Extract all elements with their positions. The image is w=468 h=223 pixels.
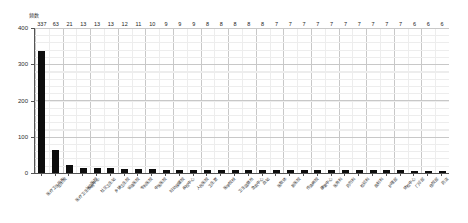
x-axis-label-slot: 医疗卫生服务中心 (62, 176, 76, 221)
bar-chart-figure: 频数 3376321131313121110999888887777777777… (0, 0, 468, 223)
bar-item[interactable]: 63 (49, 28, 63, 173)
bar-value-label: 7 (385, 21, 388, 27)
bar-rect[interactable] (66, 165, 73, 173)
bar-item[interactable]: 6 (435, 28, 449, 173)
bar-value-label: 7 (316, 21, 319, 27)
bar-item[interactable]: 8 (242, 28, 256, 173)
bar-value-label: 7 (371, 21, 374, 27)
y-axis-tick-label: 200 (18, 98, 28, 104)
bar-item[interactable]: 7 (394, 28, 408, 173)
bar-item[interactable]: 7 (297, 28, 311, 173)
bar-item[interactable]: 6 (421, 28, 435, 173)
x-axis-label-slot: 公立医院 (75, 176, 89, 221)
bar-item[interactable]: 7 (339, 28, 353, 173)
bar-value-label: 7 (344, 21, 347, 27)
bar-item[interactable]: 8 (201, 28, 215, 173)
bar-item[interactable]: 7 (270, 28, 284, 173)
x-axis-label-slot: 体检中心 (393, 176, 407, 221)
bar-value-label: 13 (80, 21, 86, 27)
bar-value-label: 63 (53, 21, 59, 27)
bar-value-label: 9 (192, 21, 195, 27)
x-axis-label-slot: 新医院 (282, 176, 296, 221)
bar-item[interactable]: 7 (283, 28, 297, 173)
bar-value-label: 13 (94, 21, 100, 27)
bar-item[interactable]: 8 (256, 28, 270, 173)
y-axis-tick-mark (31, 101, 35, 102)
x-axis-label-slot: 药剂科 (338, 176, 352, 221)
x-axis-label-slot: 专科医院 (131, 176, 145, 221)
x-axis-label-slot: 乡镇卫生院 (103, 176, 117, 221)
bar-item[interactable]: 8 (214, 28, 228, 173)
x-axis-label-slot: 门诊部 (407, 176, 421, 221)
bar-item[interactable]: 9 (159, 28, 173, 173)
y-axis-tick-label: 0 (25, 170, 28, 176)
x-axis-label-slot: 医务科 (324, 176, 338, 221)
bar-rect[interactable] (52, 150, 59, 173)
bar-item[interactable]: 8 (228, 28, 242, 173)
bar-rect[interactable] (38, 51, 45, 173)
bar-value-label: 7 (358, 21, 361, 27)
bar-value-label: 6 (440, 21, 443, 27)
bar-value-label: 6 (427, 21, 430, 27)
plot-area: 3376321131313121110999888887777777777666 (34, 28, 449, 174)
bar-item[interactable]: 9 (187, 28, 201, 173)
x-axis-label-slot: 住院部 (420, 176, 434, 221)
bar-value-label: 9 (165, 21, 168, 27)
x-axis-category-label: 药店 (441, 177, 450, 186)
bar-value-label: 7 (303, 21, 306, 27)
y-axis-tick-mark (31, 137, 35, 138)
x-axis-label-slot: 护理部 (379, 176, 393, 221)
x-axis-label-slot: 急救中心 (241, 176, 255, 221)
bar-value-label: 7 (289, 21, 292, 27)
x-axis-label-slot: 卫生监督所 (227, 176, 241, 221)
bar-value-label: 8 (206, 21, 209, 27)
bar-item[interactable]: 12 (118, 28, 132, 173)
bar-item[interactable]: 6 (408, 28, 422, 173)
y-axis-tick-mark (31, 28, 35, 29)
x-axis-label-slot: 血站 (255, 176, 269, 221)
bar-item[interactable]: 7 (366, 28, 380, 173)
bar-item[interactable]: 7 (325, 28, 339, 173)
bar-value-label: 21 (66, 21, 72, 27)
bar-item[interactable]: 337 (35, 28, 49, 173)
bar-value-label: 6 (413, 21, 416, 27)
x-axis-label-slot: 中医医院 (144, 176, 158, 221)
bar-value-label: 8 (247, 21, 250, 27)
x-axis-labels: 医疗卫生机构卫生院医疗卫生服务中心公立医院社区卫生站乡镇卫生院省级医院专科医院中… (34, 176, 448, 221)
bar-item[interactable]: 9 (173, 28, 187, 173)
bar-value-label: 12 (122, 21, 128, 27)
bar-value-label: 7 (330, 21, 333, 27)
bar-item[interactable]: 7 (311, 28, 325, 173)
bar-item[interactable]: 13 (76, 28, 90, 173)
bar-value-label: 10 (149, 21, 155, 27)
x-axis-label-slot: 社区卫生站 (89, 176, 103, 221)
x-axis-label-slot: 检验科 (351, 176, 365, 221)
x-axis-label-slot: 放射科 (365, 176, 379, 221)
bar-item[interactable]: 21 (63, 28, 77, 173)
bar-value-label: 7 (399, 21, 402, 27)
x-axis-label-slot: 传染病院 (296, 176, 310, 221)
x-axis-label-slot: 卫生室 (200, 176, 214, 221)
x-axis-label-slot: 康复中心 (310, 176, 324, 221)
bar-value-label: 9 (178, 21, 181, 27)
bar-item[interactable]: 13 (104, 28, 118, 173)
y-axis-tick-label: 400 (18, 25, 28, 31)
x-axis-label-slot: 人民医院 (186, 176, 200, 221)
x-axis-label-slot: 医联体 (269, 176, 283, 221)
bar-item[interactable]: 10 (145, 28, 159, 173)
bar-value-label: 13 (108, 21, 114, 27)
bar-value-label: 8 (261, 21, 264, 27)
x-axis-label-slot: 药店 (434, 176, 448, 221)
y-axis-tick-label: 100 (18, 134, 28, 140)
bar-item[interactable]: 7 (352, 28, 366, 173)
bar-item[interactable]: 11 (132, 28, 146, 173)
y-axis-unit-label: 频数 (29, 12, 39, 18)
x-axis-label-slot: 疾控中心 (172, 176, 186, 221)
bar-value-label: 11 (136, 21, 142, 27)
x-axis-label-slot: 省级医院 (117, 176, 131, 221)
bar-item[interactable]: 7 (380, 28, 394, 173)
bar-value-label: 337 (37, 21, 46, 27)
x-axis-label-slot: 医疗卫生机构 (34, 176, 48, 221)
bar-item[interactable]: 13 (90, 28, 104, 173)
y-axis-tick-mark (31, 64, 35, 65)
